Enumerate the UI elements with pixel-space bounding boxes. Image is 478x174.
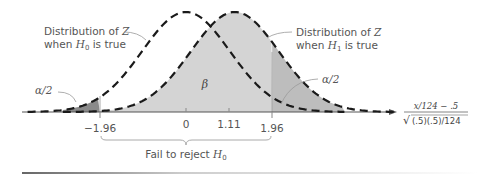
tick-label-neg196: −1.96 <box>84 122 116 134</box>
tick-label-196: 1.96 <box>260 122 284 134</box>
alpha-left-label: α/2 <box>35 84 53 96</box>
h1-distribution-label: Distribution of Z <box>296 26 382 38</box>
hypothesis-test-diagram: −1.96 0 1.11 1.96 β Distribution of Z wh… <box>0 0 478 174</box>
h0-distribution-label: Distribution of Z <box>44 25 130 37</box>
axis-radical: √ <box>403 114 411 127</box>
h1-distribution-label-line2: when H1 is true <box>296 39 378 53</box>
axis-denominator: (.5)(.5)/124 <box>412 116 461 126</box>
bottom-rule <box>22 172 478 174</box>
alpha-right-label: α/2 <box>322 73 340 85</box>
fail-to-reject-label: Fail to reject H0 <box>145 148 226 162</box>
h1-leader-line <box>267 32 292 38</box>
alpha-left-leader-line <box>58 92 76 102</box>
tick-label-0: 0 <box>183 118 190 130</box>
fail-to-reject-brace <box>101 136 271 145</box>
tick-label-111: 1.11 <box>217 118 240 130</box>
beta-label: β <box>201 78 208 91</box>
axis-numerator: x/124 − .5 <box>414 101 459 111</box>
h0-distribution-label-line2: when H0 is true <box>44 38 126 52</box>
